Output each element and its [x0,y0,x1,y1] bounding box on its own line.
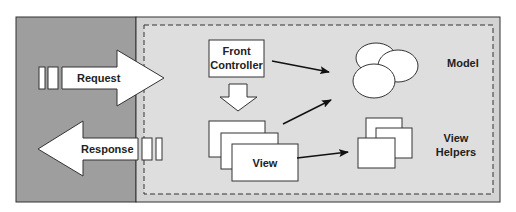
view-helpers-label-line1: View [444,132,469,144]
response-tail-bar [142,138,152,160]
client-region [16,17,136,202]
response-tail-bar [156,138,162,160]
model-circle [353,64,395,98]
request-tail-bar [48,67,58,89]
model-label: Model [447,57,479,69]
dashed-boundary [144,25,493,194]
view-helper-page [358,138,395,168]
front-controller-label-line2: Controller [210,59,263,71]
front-controller-node: Front Controller [209,40,264,77]
request-label: Request [77,72,121,84]
view-label: View [253,157,278,169]
view-helpers-label-line2: Helpers [436,146,476,158]
front-controller-diagram: Request Response Front Controller View M… [0,0,516,212]
front-controller-label-line1: Front [222,45,250,57]
request-tail-bar [39,67,45,89]
response-label: Response [81,143,134,155]
